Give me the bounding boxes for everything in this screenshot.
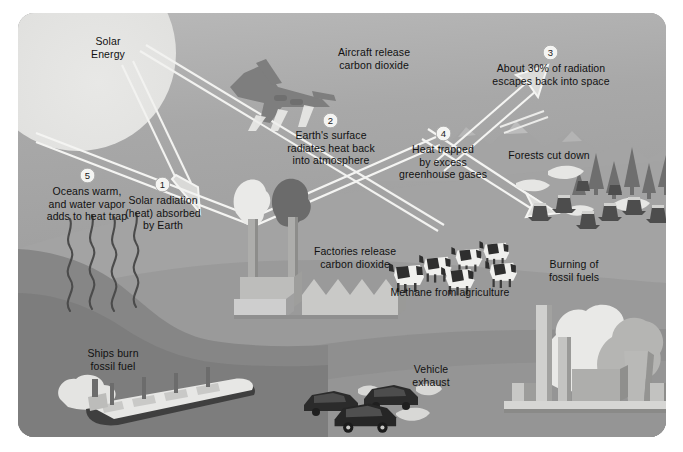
screenshot-root: Solar Energy [0,0,683,452]
step-badge-4: 4 [436,126,451,141]
step-label-2: Earth's surface radiates heat back into … [270,129,392,167]
cargo-ship-icon [58,365,268,435]
step-label-1: Solar radiation (heat) absorbed by Earth [112,194,214,232]
step-badge-3: 3 [543,45,558,60]
step-label-4: Heat trapped by excess greenhouse gases [388,143,498,181]
vehicles-caption: Vehicle exhaust [393,363,469,388]
step-label-3: About 30% of radiation escapes back into… [470,62,632,87]
step-badge-1: 1 [155,177,170,192]
step-badge-5: 5 [80,168,95,183]
forests-caption: Forests cut down [492,149,606,162]
greenhouse-effect-diagram: Solar Energy [18,13,666,437]
power-plant-icon [498,285,666,421]
ribbon-fragment [498,109,558,135]
aircraft-caption: Aircraft release carbon dioxide [314,46,434,71]
factories-caption: Factories release carbon dioxide [294,245,416,270]
ships-caption: Ships burn fossil fuel [61,347,165,372]
step-badge-2: 2 [323,113,338,128]
methane-caption: Methane from agriculture [371,286,529,299]
burning-caption: Burning of fossil fuels [527,258,621,283]
